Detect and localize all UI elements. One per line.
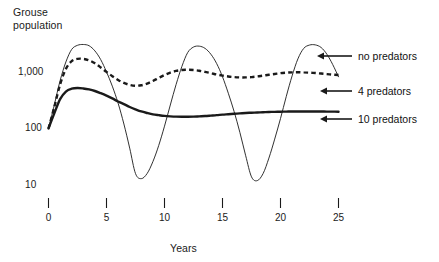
arrow-10-predators [320,115,352,122]
legend-label-4-predators: 4 predators [358,85,411,97]
x-axis-tick-label-5: 5 [92,212,122,223]
x-axis-tick-label-15: 15 [208,212,238,223]
x-axis-tick-label-25: 25 [324,212,354,223]
x-axis-tick-label-10: 10 [150,212,180,223]
y-axis-tick-label-10: 10 [25,179,36,191]
x-axis-tick-marks [49,198,339,208]
arrow-4-predators [320,87,352,94]
series-line-10-predators [49,88,339,129]
y-axis-tick-label-100: 100 [25,122,42,134]
arrow-no-predators [317,52,352,59]
y-axis-tick-label-1000: 1,000 [18,66,44,78]
chart-figure: Grousepopulation 1,000 100 10 0510152025… [0,0,439,262]
y-axis-title-line2: population [13,19,62,31]
x-axis-tick-label-20: 20 [266,212,296,223]
y-axis-title: Grousepopulation [13,6,62,32]
y-axis-title-line1: Grouse [13,6,48,18]
series-line-no-predators [49,44,339,180]
x-axis-tick-label-0: 0 [34,212,64,223]
legend-label-10-predators: 10 predators [358,113,417,125]
legend-label-no-predators: no predators [358,50,417,62]
series-line-4-predators [49,59,339,129]
x-axis-title: Years [170,242,197,254]
